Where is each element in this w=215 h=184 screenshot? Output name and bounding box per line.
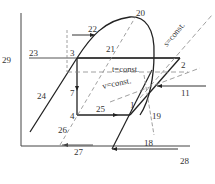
point-4-label: 4 <box>70 111 75 121</box>
label-28: 28 <box>180 156 190 166</box>
arrow-11 <box>157 84 162 88</box>
callout-21: 21 <box>106 44 115 54</box>
callout-20: 20 <box>136 8 146 18</box>
point-2-label: 2 <box>181 60 186 70</box>
callout-22: 22 <box>88 24 97 34</box>
s-const-label: s=const. <box>161 20 187 48</box>
callout-27: 27 <box>74 147 84 157</box>
callout-26: 26 <box>58 125 68 135</box>
callout-23: 23 <box>29 48 39 58</box>
point-3-label: 3 <box>70 48 75 58</box>
callout-11: 11 <box>181 88 190 98</box>
label-29: 29 <box>2 55 12 65</box>
callout-25: 25 <box>96 104 106 114</box>
t-const-label: t=const. <box>112 64 139 74</box>
callout-24: 24 <box>37 91 47 101</box>
p-h-diagram: 29 28 1 2 3 4 t=const. v=const. s=const.… <box>0 0 215 184</box>
point-1-label: 1 <box>130 100 135 110</box>
arrow-25 <box>113 113 118 117</box>
v-const-label: v=const. <box>101 75 132 91</box>
callout-7: 7 <box>70 88 75 98</box>
callout-18: 18 <box>144 138 154 148</box>
callout-19: 19 <box>152 111 162 121</box>
arrow-7 <box>75 86 79 91</box>
